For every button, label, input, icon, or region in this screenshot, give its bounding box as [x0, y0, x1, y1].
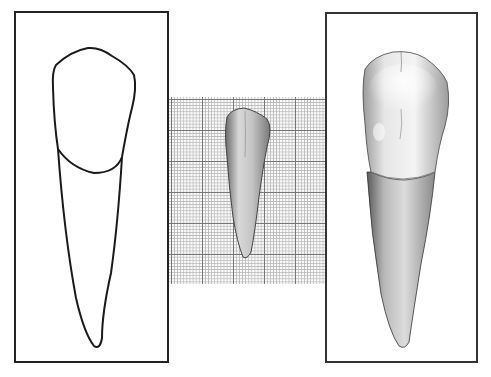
tooth-photo: [169, 97, 325, 284]
grid-photo-panel: Photograph of tooth on millimeter grid: [169, 97, 325, 284]
outline-drawing-panel: Line drawing outline of tooth: [14, 11, 169, 363]
tooth-shaded-drawing: [327, 14, 480, 365]
tooth-outline-drawing: [16, 13, 171, 365]
shaded-drawing-panel: Shaded rendering of tooth: [325, 12, 478, 363]
